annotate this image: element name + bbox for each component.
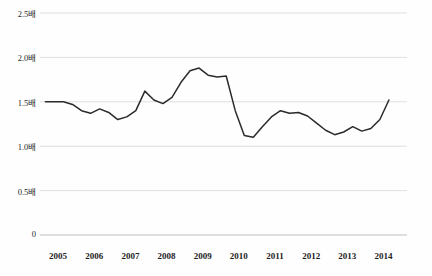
y-tick-label: 1.5배 [18, 96, 36, 108]
x-tick-label: 2008 [147, 251, 187, 261]
x-tick-label: 2007 [110, 251, 150, 261]
y-tick-label: 0.5배 [18, 185, 36, 197]
line-chart: 2.5배2.0배1.5배1.0배0.5배0 200520062007200820… [0, 0, 432, 276]
x-tick-label: 2009 [183, 251, 223, 261]
x-tick-label: 2014 [363, 251, 403, 261]
x-tick-label: 2005 [38, 251, 78, 261]
x-tick-label: 2010 [219, 251, 259, 261]
y-tick-label: 1.0배 [18, 140, 36, 152]
y-tick-label: 0 [32, 229, 36, 239]
x-tick-label: 2013 [327, 251, 367, 261]
y-tick-label: 2.5배 [18, 7, 36, 19]
chart-plot-area [0, 0, 432, 276]
series-line [45, 68, 389, 137]
gridline-group [40, 13, 407, 235]
x-tick-label: 2011 [255, 251, 295, 261]
y-tick-label: 2.0배 [18, 51, 36, 63]
x-tick-label: 2006 [74, 251, 114, 261]
x-tick-label: 2012 [291, 251, 331, 261]
series-group [45, 68, 389, 137]
